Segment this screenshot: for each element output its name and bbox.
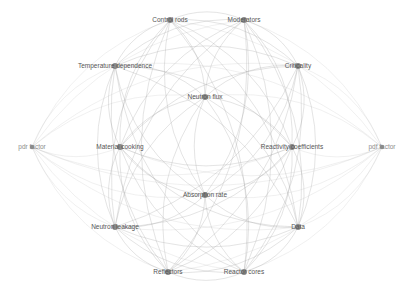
- node-label: Moderators: [228, 16, 262, 23]
- graph-node-reactor-cores[interactable]: Reactor cores: [224, 268, 265, 275]
- graph-edges: [32, 12, 382, 281]
- graph-edge: [120, 97, 205, 147]
- graph-edge: [170, 20, 205, 97]
- graph-edge: [120, 147, 382, 176]
- graph-edge: [32, 147, 298, 230]
- node-label: Data: [291, 223, 305, 230]
- graph-node-neutron-flux[interactable]: Neutron flux: [187, 93, 223, 100]
- node-label: Criticality: [285, 62, 312, 70]
- graph-edge: [292, 66, 304, 147]
- graph-node-absorption-rate[interactable]: Absorption rate: [183, 191, 227, 199]
- graph-node-data[interactable]: Data: [291, 223, 305, 230]
- graph-edge: [170, 20, 247, 272]
- graph-edge: [205, 97, 249, 272]
- node-label: Absorption rate: [183, 191, 227, 199]
- node-label: Material cooking: [96, 143, 144, 151]
- graph-edge: [115, 227, 298, 247]
- node-label: Neutron flux: [187, 93, 223, 100]
- graph-edge: [32, 63, 298, 147]
- graph-edge: [32, 147, 292, 176]
- network-graph: Control rodsModeratorsTemperature depend…: [0, 0, 411, 289]
- graph-edge: [32, 20, 170, 147]
- graph-edge: [244, 147, 292, 272]
- graph-edge: [205, 65, 298, 97]
- graph-edge: [141, 20, 170, 272]
- graph-nodes: Control rodsModeratorsTemperature depend…: [18, 16, 396, 275]
- graph-node-pdr-factor[interactable]: pdr factor: [18, 143, 46, 151]
- graph-edge: [168, 227, 298, 273]
- graph-node-material-cooking[interactable]: Material cooking: [96, 143, 144, 151]
- graph-node-reflectors[interactable]: Reflectors: [153, 268, 183, 275]
- node-label: Neutron leakage: [91, 223, 139, 231]
- graph-node-moderators[interactable]: Moderators: [228, 16, 262, 23]
- graph-node-criticality[interactable]: Criticality: [285, 62, 312, 70]
- node-label: Reactivity coefficients: [261, 143, 324, 151]
- graph-edge: [120, 147, 205, 195]
- node-label: Temperature dependence: [78, 62, 152, 70]
- node-label: pdf factor: [368, 143, 396, 151]
- graph-node-control-rods[interactable]: Control rods: [152, 16, 188, 23]
- graph-edge: [194, 97, 205, 195]
- graph-node-pdf-factor[interactable]: pdf factor: [368, 143, 396, 151]
- node-label: Control rods: [152, 16, 188, 23]
- node-label: Reactor cores: [224, 268, 265, 275]
- graph-node-reactivity-coefficients[interactable]: Reactivity coefficients: [261, 143, 324, 151]
- graph-node-temperature-dependence[interactable]: Temperature dependence: [78, 62, 152, 70]
- graph-edge: [298, 66, 382, 147]
- graph-edge: [205, 97, 292, 147]
- node-label: pdr factor: [18, 143, 46, 151]
- graph-edge: [292, 147, 304, 227]
- graph-edge: [115, 20, 170, 66]
- node-label: Reflectors: [153, 268, 183, 275]
- graph-edge: [244, 20, 292, 147]
- graph-node-neutron-leakage[interactable]: Neutron leakage: [91, 223, 139, 231]
